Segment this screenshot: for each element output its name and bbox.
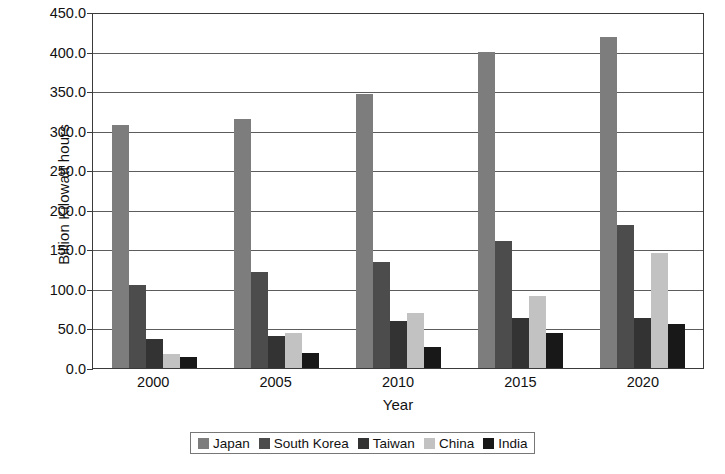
y-axis-tick-label: 0.0	[24, 362, 86, 377]
y-axis-tick-labels: 0.050.0100.0150.0200.0250.0300.0350.0400…	[24, 0, 86, 474]
y-axis-tick-label: 300.0	[24, 125, 86, 140]
legend-swatch-icon	[358, 438, 369, 449]
y-axis-tick-label: 50.0	[24, 322, 86, 337]
legend-label: Taiwan	[373, 436, 415, 451]
bar-japan-2010[interactable]	[356, 94, 373, 368]
legend-label: Japan	[213, 436, 250, 451]
bar-taiwan-2010[interactable]	[390, 321, 407, 368]
legend-item-china[interactable]: China	[424, 436, 474, 451]
legend-label: South Korea	[274, 436, 349, 451]
bar-china-2015[interactable]	[529, 296, 546, 368]
bar-japan-2020[interactable]	[600, 37, 617, 368]
bar-chart: Billion Kilowatt hours 0.050.0100.0150.0…	[0, 0, 725, 474]
bar-japan-2005[interactable]	[234, 119, 251, 368]
bar-group-2010	[337, 14, 459, 368]
y-axis-tick-label: 200.0	[24, 204, 86, 219]
y-axis-tick-label: 350.0	[24, 85, 86, 100]
legend-swatch-icon	[424, 438, 435, 449]
bar-india-2010[interactable]	[424, 347, 441, 368]
bar-group-2020	[581, 14, 703, 368]
bar-china-2020[interactable]	[651, 253, 668, 368]
legend-item-taiwan[interactable]: Taiwan	[358, 436, 415, 451]
bar-india-2015[interactable]	[546, 333, 563, 368]
y-axis-tick-label: 250.0	[24, 164, 86, 179]
bar-group-2005	[215, 14, 337, 368]
x-axis-tick-label: 2015	[459, 374, 581, 396]
x-axis-title: Year	[92, 396, 704, 413]
bar-taiwan-2015[interactable]	[512, 318, 529, 368]
legend-item-japan[interactable]: Japan	[198, 436, 250, 451]
x-axis-tick-label: 2020	[582, 374, 704, 396]
bar-japan-2000[interactable]	[112, 125, 129, 368]
bar-south-korea-2000[interactable]	[129, 285, 146, 368]
bar-group-2000	[93, 14, 215, 368]
x-axis-tick-label: 2010	[337, 374, 459, 396]
bar-south-korea-2020[interactable]	[617, 225, 634, 368]
bar-china-2005[interactable]	[285, 333, 302, 368]
bar-china-2000[interactable]	[163, 354, 180, 368]
legend-swatch-icon	[259, 438, 270, 449]
bar-south-korea-2010[interactable]	[373, 262, 390, 368]
legend-item-india[interactable]: India	[483, 436, 527, 451]
y-axis-tick-label: 450.0	[24, 6, 86, 21]
y-axis-tick	[87, 369, 93, 370]
plot-area	[92, 13, 704, 369]
x-axis-tick-labels: 20002005201020152020	[92, 374, 704, 396]
x-axis-tick-label: 2005	[214, 374, 336, 396]
x-axis-tick-label: 2000	[92, 374, 214, 396]
y-axis-tick-label: 100.0	[24, 283, 86, 298]
bar-japan-2015[interactable]	[478, 52, 495, 368]
bar-india-2020[interactable]	[668, 324, 685, 368]
legend: JapanSouth KoreaTaiwanChinaIndia	[190, 432, 535, 454]
bar-south-korea-2005[interactable]	[251, 272, 268, 368]
bar-south-korea-2015[interactable]	[495, 241, 512, 368]
legend-label: India	[498, 436, 527, 451]
bar-taiwan-2000[interactable]	[146, 339, 163, 368]
y-axis-tick-label: 400.0	[24, 46, 86, 61]
bar-india-2005[interactable]	[302, 353, 319, 368]
legend-swatch-icon	[483, 438, 494, 449]
legend-label: China	[439, 436, 474, 451]
bar-group-2015	[459, 14, 581, 368]
bar-groups	[93, 14, 703, 368]
bar-taiwan-2005[interactable]	[268, 336, 285, 368]
bar-taiwan-2020[interactable]	[634, 318, 651, 368]
legend-swatch-icon	[198, 438, 209, 449]
legend-item-south-korea[interactable]: South Korea	[259, 436, 349, 451]
y-axis-tick-label: 150.0	[24, 243, 86, 258]
bar-china-2010[interactable]	[407, 313, 424, 368]
bar-india-2000[interactable]	[180, 357, 197, 368]
